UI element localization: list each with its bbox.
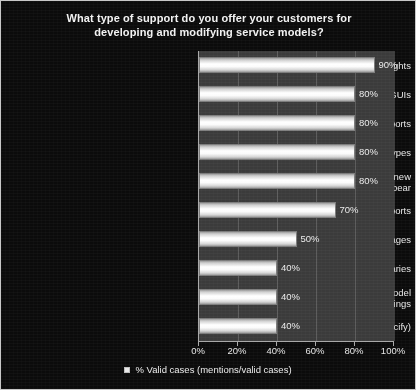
bar-row	[199, 225, 394, 254]
bar	[199, 144, 355, 160]
bar	[199, 289, 277, 305]
bar	[199, 231, 297, 247]
bar-value-label: 80%	[359, 87, 378, 101]
bar	[199, 86, 355, 102]
bar	[199, 57, 375, 73]
x-tick-label: 60%	[305, 345, 324, 357]
bar-row	[199, 51, 394, 80]
chart-title: What type of support do you offer your c…	[37, 11, 381, 39]
bar-value-label: 80%	[359, 116, 378, 130]
x-tick-label: 0%	[191, 345, 205, 357]
bar-value-label: 80%	[359, 174, 378, 188]
x-tick-label: 100%	[381, 345, 405, 357]
bar-value-label: 40%	[281, 290, 300, 304]
bar-value-label: 50%	[301, 232, 320, 246]
legend-square-marker	[124, 367, 130, 373]
bar-value-label: 90%	[379, 58, 398, 72]
chart-legend: % Valid cases (mentions/valid cases)	[1, 364, 415, 376]
bar	[199, 260, 277, 276]
bar-row	[199, 196, 394, 225]
bar	[199, 115, 355, 131]
bar-value-label: 70%	[340, 203, 359, 217]
gridline	[394, 51, 395, 341]
bar	[199, 202, 336, 218]
bar	[199, 318, 277, 334]
bar-value-label: 40%	[281, 319, 300, 333]
bar-chart-figure: What type of support do you offer your c…	[0, 0, 416, 390]
x-tick-label: 80%	[344, 345, 363, 357]
x-tick-label: 20%	[227, 345, 246, 357]
bar	[199, 173, 355, 189]
x-tick-label: 40%	[266, 345, 285, 357]
legend-label: % Valid cases (mentions/valid cases)	[135, 364, 291, 376]
bar-value-label: 80%	[359, 145, 378, 159]
bar-value-label: 40%	[281, 261, 300, 275]
